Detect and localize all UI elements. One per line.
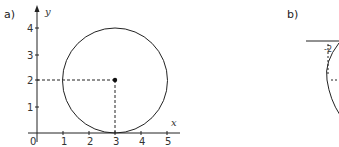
origin-label: 0 — [30, 136, 36, 147]
diagram-canvas: a) y x 0 1 2 3 4 5 1 2 3 4 b) -2 — [0, 0, 339, 147]
y-tick-4: 4 — [27, 23, 33, 34]
x-tick-5: 5 — [165, 136, 171, 147]
y-axis-arrow-icon — [35, 5, 40, 12]
x-axis-label: x — [171, 117, 177, 128]
x-tick-2: 2 — [87, 136, 93, 147]
panel-b-label: b) — [287, 8, 298, 21]
x-tick-3: 3 — [113, 136, 119, 147]
y-tick-2: 2 — [27, 75, 33, 86]
circle-center-point — [113, 78, 117, 82]
y-tick-1: 1 — [27, 102, 33, 113]
y-tick-3: 3 — [27, 50, 33, 61]
x-tick-1: 1 — [61, 136, 67, 147]
panel-a-label: a) — [4, 8, 15, 21]
x-tick-4: 4 — [139, 136, 145, 147]
y-axis-label: y — [44, 6, 51, 17]
